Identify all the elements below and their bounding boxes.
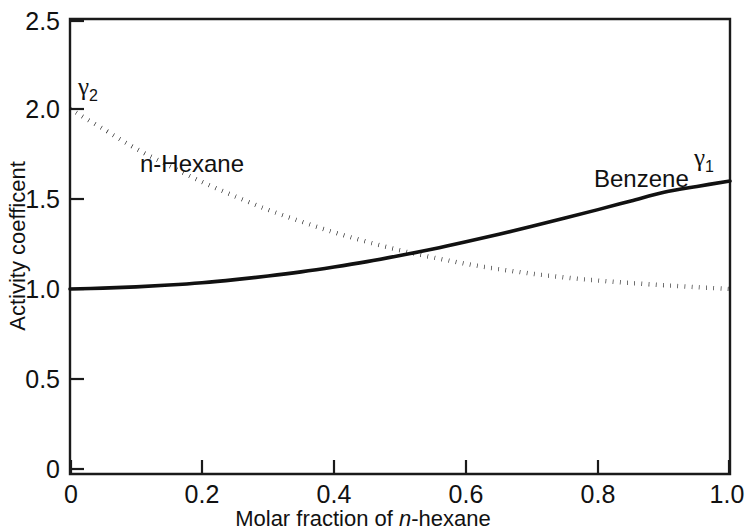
- y-tick-label-0: 0: [46, 455, 60, 483]
- plot-frame: [70, 19, 730, 474]
- x-tick-label-2: 0.4: [317, 480, 352, 508]
- gamma1-subscript: 1: [705, 158, 714, 175]
- n-hexane-label: n-Hexane: [140, 150, 244, 177]
- axis-titles: Molar fraction of n-hexane Activity coef…: [5, 161, 491, 531]
- x-tick-label-4: 0.8: [581, 480, 616, 508]
- x-axis-title-prefix: Molar fraction of: [235, 506, 399, 531]
- x-tick-label-3: 0.6: [449, 480, 484, 508]
- chart-svg: 0 0.5 1.0 1.5 2.0 2.5 0 0.2 0.4 0.6 0.8 …: [0, 0, 745, 531]
- x-axis-ticks: [71, 460, 729, 474]
- x-tick-label-5: 1.0: [710, 480, 745, 508]
- series-annotations: γ2 n-Hexane Benzene γ1: [77, 73, 714, 192]
- gamma2-base: γ: [77, 73, 89, 100]
- y-tick-label-1: 0.5: [25, 365, 60, 393]
- benzene-label: Benzene: [594, 165, 689, 192]
- y-tick-label-4: 2.0: [25, 95, 60, 123]
- gamma1-base: γ: [693, 144, 705, 171]
- y-tick-label-5: 2.5: [25, 7, 60, 35]
- series-curve-benzene: [70, 181, 730, 289]
- gamma2-subscript: 2: [89, 87, 98, 104]
- x-tick-labels: 0 0.2 0.4 0.6 0.8 1.0: [64, 480, 744, 508]
- series-curve-n-hexane: [70, 109, 730, 289]
- x-axis-title-italic: n: [399, 506, 411, 531]
- x-axis-title: Molar fraction of n-hexane: [235, 506, 491, 531]
- activity-coefficient-chart: 0 0.5 1.0 1.5 2.0 2.5 0 0.2 0.4 0.6 0.8 …: [0, 0, 745, 531]
- x-axis-title-suffix: -hexane: [411, 506, 491, 531]
- y-tick-label-2: 1.0: [25, 275, 60, 303]
- x-tick-label-0: 0: [64, 480, 78, 508]
- gamma2-annotation: γ2: [77, 73, 98, 104]
- data-curves: [70, 109, 730, 289]
- x-tick-label-1: 0.2: [185, 480, 220, 508]
- y-tick-labels: 0 0.5 1.0 1.5 2.0 2.5: [25, 7, 60, 483]
- y-axis-title: Activity coefficent: [5, 161, 30, 331]
- y-tick-label-3: 1.5: [25, 185, 60, 213]
- gamma1-annotation: γ1: [693, 144, 714, 175]
